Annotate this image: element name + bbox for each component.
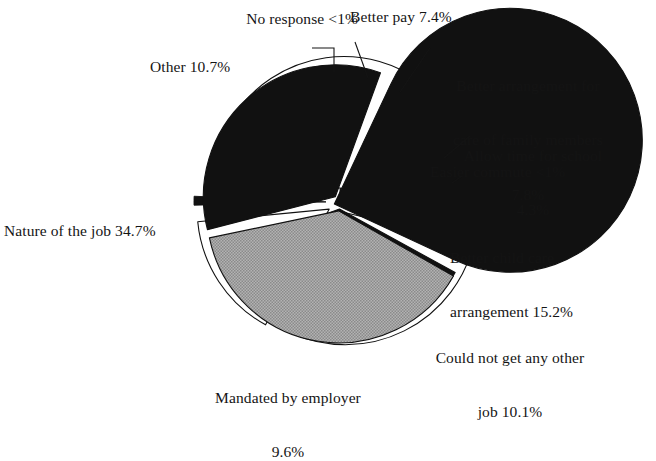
- slice-label-family-care-line1: Better arrangement for: [420, 77, 636, 95]
- slice-label-other: Other 10.7%: [150, 58, 286, 76]
- slice-label-could-not-get-job: Could not get any other job 10.1%: [410, 312, 610, 458]
- slice-label-easier-commute: Easier commute <1%: [430, 163, 652, 181]
- slice-label-could-not-line1: Could not get any other: [410, 349, 610, 367]
- slice-label-mandated-line1: Mandated by employer: [188, 389, 388, 407]
- slice-label-child-care-line1: Better child care: [450, 249, 640, 267]
- slice-label-could-not-line2: job 10.1%: [410, 403, 610, 421]
- slice-label-no-response: No response <1%: [168, 10, 358, 28]
- slice-label-mandated-by-employer: Mandated by employer 9.6%: [188, 352, 388, 461]
- slice-label-mandated-line2: 9.6%: [188, 443, 388, 461]
- slice-label-better-pay: Better pay 7.4%: [350, 8, 510, 26]
- slice-label-nature-of-job: Nature of the job 34.7%: [4, 222, 216, 240]
